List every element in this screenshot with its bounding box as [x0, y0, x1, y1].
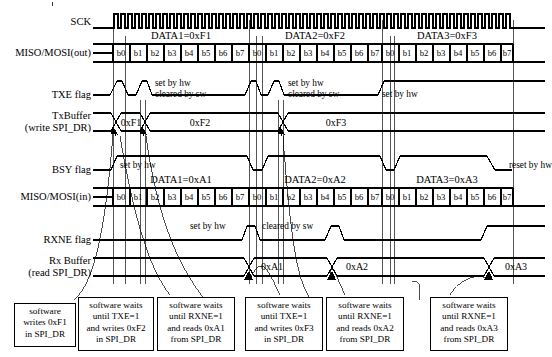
- callout-line: and writes 0xF3: [248, 323, 320, 334]
- out-bit: b3: [437, 48, 446, 59]
- callout-line: until RXNE=1: [433, 311, 505, 322]
- spi-timing-diagram: SCK MISO/MOSI(out) TXE flag TxBuffer (wr…: [0, 0, 552, 357]
- annotation-txe-cleared-by-sw-1: cleared by sw: [155, 89, 206, 100]
- in-bit: b5: [202, 192, 211, 203]
- callout-line: in SPI_DR: [81, 334, 151, 345]
- in-bit: b0: [253, 192, 262, 203]
- rxbuffer-value-2: 0xA2: [346, 261, 368, 272]
- callout-line: until RXNE=1: [329, 311, 401, 322]
- callout-box-2: software waits until TXE=1 and writes 0x…: [78, 297, 154, 351]
- in-bit: b4: [185, 192, 194, 203]
- callout-box-3: software waits until RXNE=1 and reads 0x…: [157, 297, 235, 351]
- in-bit: b0: [386, 192, 395, 203]
- row-label-txe-flag: TXE flag: [52, 89, 91, 100]
- in-bit: b7: [503, 192, 512, 203]
- callout-line: and reads 0xA2: [329, 323, 401, 334]
- in-frame-name-3: DATA3=0xA3: [416, 174, 478, 185]
- in-bit: b1: [134, 192, 143, 203]
- callout-line: until RXNE=1: [160, 311, 232, 322]
- out-bit: b4: [185, 48, 194, 59]
- out-bit: b3: [168, 48, 177, 59]
- callout-box-6: software waits until RXNE=1 and reads 0x…: [430, 297, 508, 351]
- out-bit: b1: [403, 48, 412, 59]
- callout-box-5: software waits until RXNE=1 and reads 0x…: [326, 297, 404, 351]
- in-bit: b2: [420, 192, 429, 203]
- sck-waveform: [93, 14, 545, 28]
- annotation-txe-cleared-by-sw-2: cleared by sw: [288, 89, 339, 100]
- out-bit: b2: [287, 48, 296, 59]
- txbuffer-value-1: 0xF1: [121, 117, 142, 128]
- out-bit: b0: [117, 48, 126, 59]
- out-bit: b7: [371, 48, 380, 59]
- callout-line: software waits: [160, 300, 232, 311]
- callout-line: in SPI_DR: [248, 334, 320, 345]
- in-bit: b1: [403, 192, 412, 203]
- callout-line: software waits: [81, 300, 151, 311]
- row-label-bsy-flag: BSY flag: [52, 164, 91, 175]
- annotation-rxne-cleared-by-sw: cleared by sw: [262, 221, 313, 232]
- callout-line: software waits: [329, 300, 401, 311]
- callout-line: until TXE=1: [248, 311, 320, 322]
- callout-line: from SPI_DR: [329, 334, 401, 345]
- rxbuffer-envelope: [244, 258, 545, 276]
- in-bit: b4: [321, 192, 330, 203]
- in-bit: b1: [270, 192, 279, 203]
- out-bit: b5: [338, 48, 347, 59]
- callout-line: until TXE=1: [81, 311, 151, 322]
- in-frame-name-2: DATA2=0xA2: [284, 174, 346, 185]
- callout-line: and reads 0xA3: [433, 323, 505, 334]
- out-bit: b5: [202, 48, 211, 59]
- callout-line: and reads 0xA1: [160, 323, 232, 334]
- annotation-txe-set-by-hw-1: set by hw: [155, 78, 191, 89]
- callout-box-4: software waits until TXE=1 and writes 0x…: [245, 297, 323, 351]
- row-label-rxbuffer-sub: (read SPI_DR): [28, 267, 91, 278]
- out-bit: b0: [253, 48, 262, 59]
- callout-box-1: software writes 0xF1 in SPI_DR: [14, 303, 76, 347]
- callout-line: and writes 0xF2: [81, 323, 151, 334]
- in-frame-name-1: DATA1=0xA1: [150, 174, 212, 185]
- txbuffer-value-3: 0xF3: [326, 117, 347, 128]
- callout-line: writes 0xF1: [17, 317, 73, 328]
- in-bit: b6: [219, 192, 228, 203]
- out-frame-name-3: DATA3=0xF3: [417, 30, 477, 41]
- callout-line: from SPI_DR: [160, 334, 232, 345]
- out-bit: b6: [355, 48, 364, 59]
- out-bit: b5: [471, 48, 480, 59]
- row-label-sck: SCK: [71, 16, 91, 27]
- in-bit: b3: [304, 192, 313, 203]
- in-bit: b5: [471, 192, 480, 203]
- in-bit: b3: [437, 192, 446, 203]
- annotation-txe-set-by-hw-3: set by hw: [382, 89, 418, 100]
- callout-line: software: [17, 306, 73, 317]
- annotation-bsy-reset-by-hw: reset by hw: [509, 160, 552, 171]
- out-frame-name-1: DATA1=0xF1: [151, 30, 211, 41]
- out-bit: b3: [304, 48, 313, 59]
- row-label-rxne-flag: RXNE flag: [43, 234, 91, 245]
- in-bit: b0: [117, 192, 126, 203]
- in-bit: b2: [287, 192, 296, 203]
- row-label-txbuffer-sub: (write SPI_DR): [25, 122, 91, 133]
- out-bit: b7: [236, 48, 245, 59]
- out-bit: b2: [420, 48, 429, 59]
- rxbuffer-value-1: 0xA1: [261, 261, 283, 272]
- txbuffer-value-2: 0xF2: [190, 117, 211, 128]
- out-bit: b4: [454, 48, 463, 59]
- out-bit: b7: [503, 48, 512, 59]
- out-bit: b1: [134, 48, 143, 59]
- row-label-miso-mosi-in: MISO/MOSI(in): [20, 191, 91, 202]
- in-bit: b2: [151, 192, 160, 203]
- row-label-rxbuffer: Rx Buffer: [49, 255, 91, 266]
- in-bit: b6: [355, 192, 364, 203]
- row-label-txbuffer: TxBuffer: [52, 110, 91, 121]
- out-bit: b4: [321, 48, 330, 59]
- in-bit: b6: [488, 192, 497, 203]
- callout-line: from SPI_DR: [433, 334, 505, 345]
- out-bit: b1: [270, 48, 279, 59]
- callout-line: in SPI_DR: [17, 329, 73, 340]
- rxne-flag-waveform: [93, 226, 545, 240]
- callout-arrows: [111, 127, 492, 280]
- in-bit: b7: [371, 192, 380, 203]
- annotation-bsy-set-by-hw: set by hw: [120, 160, 156, 171]
- annotation-rxne-set-by-hw: set by hw: [190, 221, 226, 232]
- out-frame-name-2: DATA2=0xF2: [285, 30, 345, 41]
